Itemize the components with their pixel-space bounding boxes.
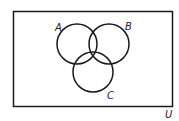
set-a-label: A: [54, 22, 62, 33]
set-c-circle: [73, 52, 113, 92]
set-a-circle: [57, 24, 97, 64]
set-c-label: C: [107, 90, 114, 101]
set-b-label: B: [125, 21, 132, 32]
set-b-circle: [89, 24, 129, 64]
universe-label: U: [165, 109, 173, 120]
venn-diagram: A B C U: [0, 0, 179, 121]
